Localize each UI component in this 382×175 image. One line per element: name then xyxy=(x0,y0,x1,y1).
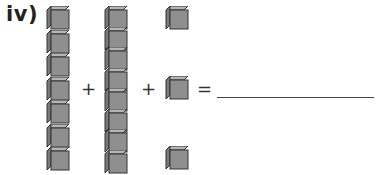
cube-icon xyxy=(46,6,70,30)
cube-icon xyxy=(46,100,70,124)
cube-icon xyxy=(165,6,189,30)
cube-icon xyxy=(165,76,189,100)
question-label: iv) xyxy=(6,2,38,26)
cube-icon xyxy=(46,147,70,171)
answer-blank[interactable] xyxy=(217,97,374,98)
plus-sign-1: + xyxy=(81,78,96,99)
cube-icon xyxy=(46,53,70,77)
cube-icon xyxy=(46,77,70,101)
cube-icon xyxy=(46,30,70,54)
plus-sign-2: + xyxy=(141,78,156,99)
cube-icon xyxy=(104,150,128,174)
equals-sign: = xyxy=(197,78,212,99)
cube-icon xyxy=(46,124,70,148)
cube-icon xyxy=(165,146,189,170)
